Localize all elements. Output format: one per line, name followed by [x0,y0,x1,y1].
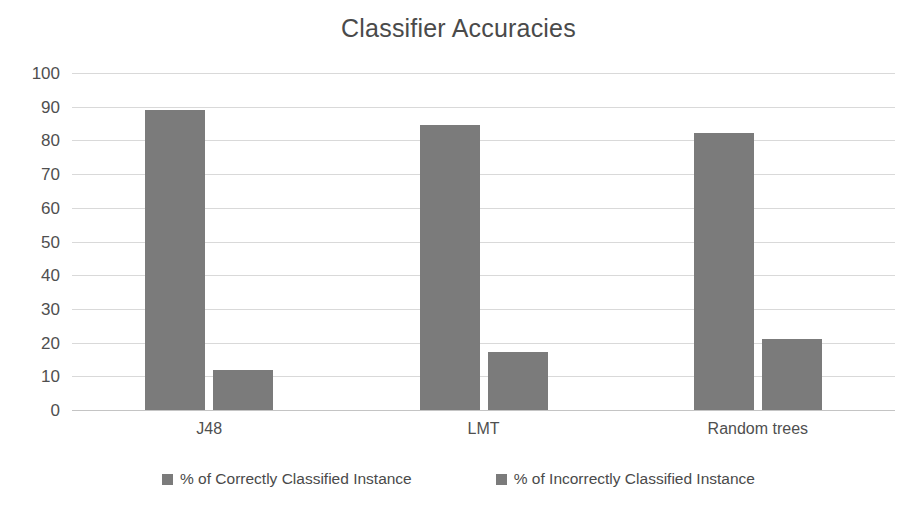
legend-swatch-correct [162,474,173,485]
y-tick-label-10: 10 [0,368,60,385]
bar-random-trees-series-0[interactable] [694,133,754,410]
legend-swatch-incorrect [496,474,507,485]
y-axis: 0102030405060708090100 [0,73,60,410]
legend-label-1: % of Incorrectly Classified Instance [514,470,755,488]
bar-random-trees-series-1[interactable] [762,339,822,410]
bars-layer [72,73,895,410]
y-tick-label-60: 60 [0,199,60,216]
legend-label-0: % of Correctly Classified Instance [180,470,412,488]
y-tick-label-80: 80 [0,132,60,149]
y-tick-label-0: 0 [0,402,60,419]
y-tick-label-50: 50 [0,233,60,250]
legend-entry-1[interactable]: % of Incorrectly Classified Instance [496,470,755,488]
bar-lmt-series-1[interactable] [488,352,548,410]
y-tick-label-30: 30 [0,300,60,317]
x-tick-label-lmt: LMT [468,420,500,438]
bar-lmt-series-0[interactable] [420,125,480,410]
chart-title: Classifier Accuracies [0,14,917,43]
y-tick-label-90: 90 [0,98,60,115]
gridline-0 [72,410,895,411]
y-tick-label-100: 100 [0,65,60,82]
x-tick-label-j48: J48 [196,420,222,438]
legend-entry-0[interactable]: % of Correctly Classified Instance [162,470,412,488]
x-tick-label-random-trees: Random trees [708,420,809,438]
bar-j48-series-1[interactable] [213,370,273,410]
y-tick-label-70: 70 [0,166,60,183]
bar-j48-series-0[interactable] [145,110,205,410]
bar-chart: Classifier Accuracies 010203040506070809… [0,0,917,526]
y-tick-label-20: 20 [0,334,60,351]
x-axis: J48LMTRandom trees [72,420,895,450]
chart-legend: % of Correctly Classified Instance% of I… [0,470,917,488]
y-tick-label-40: 40 [0,267,60,284]
